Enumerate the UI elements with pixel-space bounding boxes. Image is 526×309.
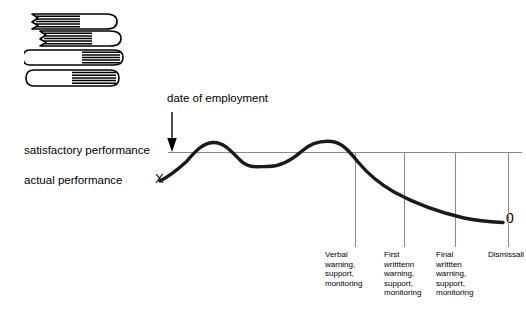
curve-start-marker: X <box>155 172 164 185</box>
stage-label-verbal-warning: Verbal warning, support, monitoring <box>325 250 362 288</box>
annotation-satisfactory-performance: satisfactory performance <box>24 144 150 157</box>
annotation-actual-performance: actual performance <box>24 174 122 187</box>
stage-label-dismissal: Dismissall <box>488 250 524 260</box>
curve-end-marker: 0 <box>506 212 514 225</box>
stage-label-final-written-warning: Final writtten warning, support, monitor… <box>436 250 473 298</box>
date-of-employment-arrow <box>167 112 177 152</box>
book-stack-icon <box>24 10 128 96</box>
stage-label-first-written-warning: First writttenn warning, support, monito… <box>384 250 421 298</box>
actual-performance-curve <box>160 141 503 222</box>
event-tick-lines <box>356 152 509 247</box>
figure-canvas: date of employment satisfactory performa… <box>0 0 526 309</box>
book-stack-svg <box>24 10 128 96</box>
annotation-date-of-employment: date of employment <box>167 92 268 105</box>
